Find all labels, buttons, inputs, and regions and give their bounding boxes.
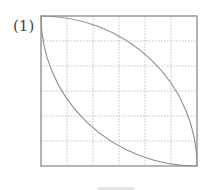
- grid-lines: [41, 16, 197, 166]
- scroll-indicator: [98, 187, 134, 190]
- grid-figure: [0, 0, 210, 190]
